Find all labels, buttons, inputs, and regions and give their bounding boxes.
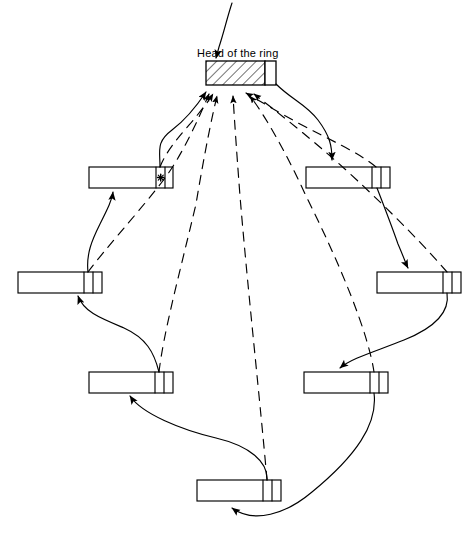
node-3 [18,272,102,293]
node-6 [304,372,388,393]
backlink-node5-to-head [159,96,217,372]
backlink-node2-to-head [246,93,376,167]
node-5 [89,372,173,393]
backlink-node1-to-head [160,94,213,167]
ring-diagram-svg [0,0,468,551]
node-4 [377,272,461,293]
link-node1-to-head [160,92,206,167]
link-node7-to-node5 [130,396,267,480]
node-2 [306,167,390,188]
backlink-node7-to-head [233,96,267,480]
link-node3-to-node1 [88,192,113,272]
head-block-body [206,61,265,85]
head-block-pointer-cell [265,61,276,85]
link-head-to-node2 [276,84,332,160]
backlink-node6-to-head [250,96,374,372]
link-node4-to-node6 [340,293,447,368]
node-7 [197,480,281,501]
head-of-the-ring-label: Head of the ring [197,47,278,59]
link-node2-to-node4 [377,188,408,268]
link-node5-to-node3 [78,296,159,372]
figure-canvas: Head of the ring [0,0,468,551]
